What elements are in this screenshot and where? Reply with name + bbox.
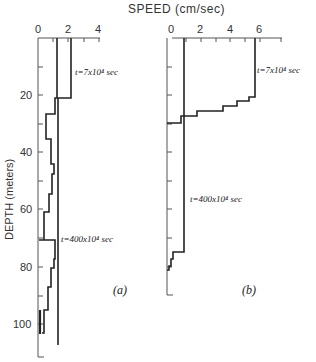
a-series-t7 <box>58 38 71 345</box>
b-xtick-2: 2 <box>197 23 203 35</box>
b-label-t400: t=400x10⁴ sec <box>190 194 242 204</box>
b-xtick-4: 4 <box>227 23 233 35</box>
y-axis-label: DEPTH (meters) <box>3 159 15 240</box>
panel-b-label: (b) <box>242 283 256 297</box>
ytick-60: 60 <box>20 203 32 215</box>
b-xtick-6: 6 <box>256 23 262 35</box>
a-label-t400: t=400x10⁴ sec <box>61 234 113 244</box>
ytick-80: 80 <box>20 261 32 273</box>
a-series-t400 <box>39 38 57 333</box>
a-xtick-0: 0 <box>35 23 41 35</box>
panel-a: 0 2 4 20 40 60 80 <box>13 23 127 357</box>
b-xtick-0: 0 <box>168 23 174 35</box>
b-label-t7: t=7x10⁴ sec <box>257 65 300 75</box>
a-label-t7: t=7x10⁴ sec <box>75 67 118 77</box>
b-series-t7 <box>167 38 255 123</box>
panel-a-label: (a) <box>113 283 127 297</box>
a-xtick-4: 4 <box>95 23 101 35</box>
ytick-100: 100 <box>13 318 31 330</box>
a-y-axis <box>38 38 44 357</box>
a-x-axis <box>38 38 100 42</box>
speed-depth-figure: SPEED (cm/sec) DEPTH (meters) 0 2 4 <box>0 0 316 362</box>
b-y-axis <box>167 38 173 295</box>
ytick-20: 20 <box>20 89 32 101</box>
figure-title: SPEED (cm/sec) <box>128 2 225 16</box>
a-xtick-2: 2 <box>65 23 71 35</box>
b-x-axis <box>172 38 282 42</box>
b-series-t400 <box>167 38 184 270</box>
ytick-40: 40 <box>20 146 32 158</box>
panel-b: 0 2 4 6 t=7x10⁴ <box>167 23 300 297</box>
